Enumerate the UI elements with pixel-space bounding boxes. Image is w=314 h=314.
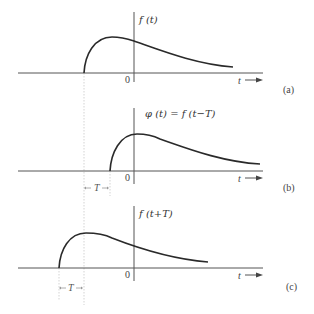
panel-tag: (a) [283, 84, 294, 96]
function-label: φ (t) = f (t−T) [145, 108, 216, 119]
origin-label: 0 [125, 74, 130, 85]
shift-indicator: T [84, 182, 109, 193]
function-label: f (t+T) [138, 208, 173, 219]
origin-label: 0 [125, 269, 130, 280]
guide-lines [59, 73, 110, 305]
origin-label: 0 [125, 172, 130, 183]
t-axis-label: t [238, 75, 241, 86]
pulse-curve [84, 37, 233, 73]
arrow-right-icon [256, 78, 263, 83]
arrow-left-icon [84, 187, 86, 190]
arrow-right-icon [256, 176, 263, 181]
t-axis-label: t [238, 173, 241, 184]
pulse-curve-delayed [110, 134, 260, 171]
shift-indicator: T [59, 282, 83, 293]
function-label: f (t) [138, 14, 158, 25]
arrow-right-icon [107, 187, 109, 190]
arrow-right-icon [81, 287, 83, 290]
panel-c: f (t+T) 0 t T (c) [18, 206, 297, 293]
panel-tag: (c) [286, 281, 297, 293]
shift-label: T [94, 182, 101, 193]
arrow-right-icon [256, 273, 263, 278]
t-axis-label: t [238, 270, 241, 281]
time-shift-diagram: f (t) 0 t (a) φ (t) = f (t−T) 0 t T (b) … [0, 0, 314, 314]
panel-b: φ (t) = f (t−T) 0 t T (b) [18, 108, 295, 194]
panel-tag: (b) [283, 182, 295, 194]
panel-a: f (t) 0 t (a) [18, 12, 294, 96]
shift-label: T [68, 282, 75, 293]
